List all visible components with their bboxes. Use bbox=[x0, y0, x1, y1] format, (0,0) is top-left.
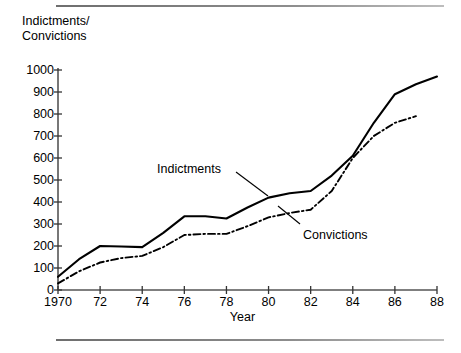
series-line-indictments bbox=[58, 77, 437, 277]
chart-figure: Indictments/Convictions 0100200300400500… bbox=[0, 0, 461, 353]
leader-line-indictments bbox=[236, 172, 268, 196]
chart-plot-svg bbox=[0, 0, 461, 353]
